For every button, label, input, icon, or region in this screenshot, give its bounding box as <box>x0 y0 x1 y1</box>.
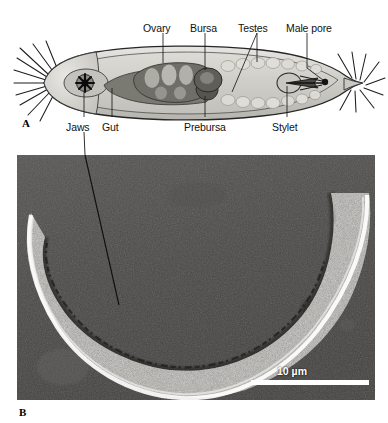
panel-b-micrograph-image <box>17 155 375 400</box>
scalebar-label: 10 µm <box>277 365 307 377</box>
panel-a-letter: A <box>22 117 30 129</box>
label-prebursa: Prebursa <box>184 121 226 133</box>
label-jaws: Jaws <box>66 121 90 133</box>
bursa <box>194 68 222 92</box>
figure-container: Ovary Bursa Testes Male pore Jaws Gut Pr… <box>0 0 388 423</box>
label-testes: Testes <box>238 22 268 34</box>
panel-b-micrograph-frame <box>17 155 375 400</box>
label-gut: Gut <box>102 121 119 133</box>
jaws-structure <box>76 74 94 92</box>
label-bursa: Bursa <box>190 22 217 34</box>
label-ovary: Ovary <box>143 22 171 34</box>
label-male-pore: Male pore <box>286 22 332 34</box>
label-stylet: Stylet <box>272 121 298 133</box>
scalebar-bar <box>251 380 369 385</box>
panel-b-letter: B <box>19 406 26 418</box>
panel-a-anatomical-drawing <box>0 0 388 140</box>
